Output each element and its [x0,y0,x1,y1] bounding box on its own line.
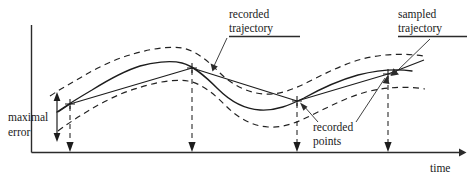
recorded-points-leader-arrowhead-left [300,103,308,111]
sampled-trajectory-segments [58,60,424,112]
recorded-trajectory-curve [57,62,412,112]
x-axis-label: time [430,162,450,174]
sampled-trajectory-leader-line [396,39,430,72]
sample-drop-line [66,106,73,152]
sample-drop-line [293,103,300,152]
sampled-trajectory-label-line1: sampled [398,8,437,21]
recorded-points-leader-line-right [356,78,385,122]
sampled-trajectory-label-line2: trajectory [398,22,442,35]
recorded-points-label-line2: points [313,135,342,148]
sample-drop-line [384,76,391,152]
maximal-error-arrow [54,92,61,142]
x-axis-arrowhead [459,149,467,157]
sampled-trajectory-polyline [58,60,424,112]
recorded-trajectory-leader-line [214,38,227,66]
recorded-trajectory-label-line2: trajectory [229,22,273,35]
annotation-sampled-trajectory: sampled trajectory [391,8,468,76]
recorded-points-label-line1: recorded [313,121,353,133]
recorded-trajectory-label-line1: recorded [229,8,269,20]
recorded-point-markers [65,63,393,109]
trajectory-sampling-diagram: recorded trajectory sampled trajectory r… [0,0,472,177]
annotation-maximal-error: maximal error [8,111,48,138]
maximal-error-label-line1: maximal [8,111,48,123]
sample-drop-lines [66,70,391,152]
upper-error-envelope-curve [50,47,424,96]
maximal-error-label-line2: error [8,126,31,138]
annotation-recorded-trajectory: recorded trajectory [211,8,300,72]
